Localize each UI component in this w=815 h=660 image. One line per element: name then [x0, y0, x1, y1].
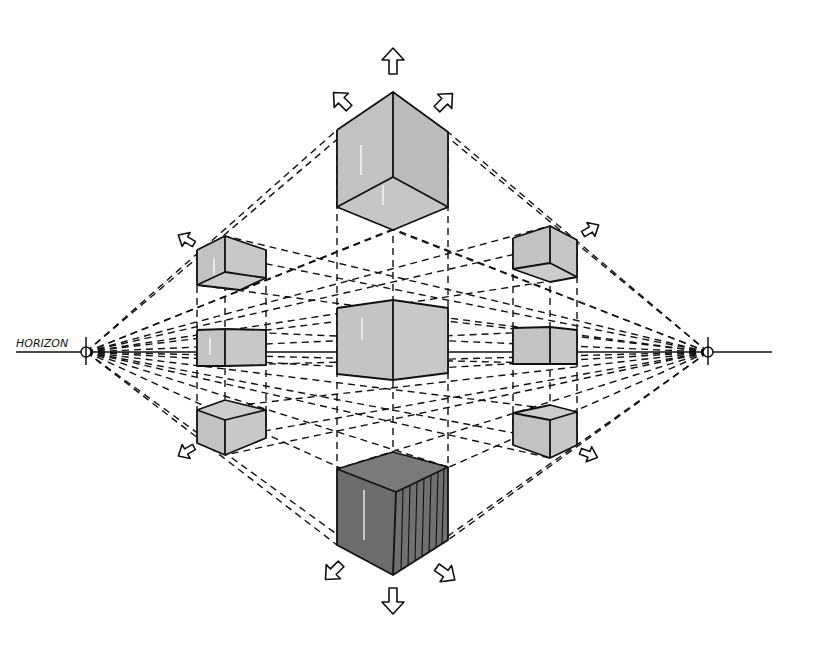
arrow-right-lower-icon — [578, 444, 600, 465]
arrow-down-right-icon — [431, 559, 460, 588]
arrow-down-icon — [382, 588, 404, 614]
perspective-diagram — [0, 0, 815, 660]
cube-upper-right — [513, 226, 577, 282]
vanishing-point-right — [703, 337, 713, 365]
arrow-up-right-icon — [430, 86, 460, 116]
cube-middle-left — [197, 329, 266, 366]
arrow-left-lower-icon — [174, 440, 198, 463]
arrow-down-left-icon — [318, 557, 348, 587]
arrow-up-left-icon — [326, 85, 356, 115]
cube-middle-right — [513, 327, 577, 364]
cube-center — [337, 300, 448, 380]
arrow-right-upper-icon — [579, 218, 603, 241]
cube-lower-right — [513, 405, 577, 458]
cube-upper-left — [197, 236, 266, 290]
cube-top-center — [337, 92, 448, 230]
cube-lower-left — [197, 400, 266, 455]
arrow-left-upper-icon — [174, 228, 198, 251]
vanishing-point-left — [81, 337, 91, 365]
cube-bottom-center — [337, 452, 448, 575]
arrow-up-icon — [382, 48, 404, 74]
horizon-label: HORIZON — [16, 337, 68, 350]
